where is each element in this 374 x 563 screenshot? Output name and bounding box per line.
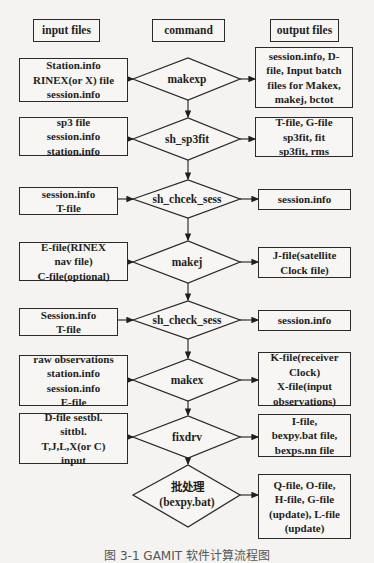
input-box-2: sp3 file session.info station.info [19, 117, 128, 156]
output-box-2: T-file, G-file sp3fit, fit sp3fit, rms [255, 117, 353, 157]
command-makexp: makexp [168, 72, 207, 86]
input-box-7: D-file sestbl. sittbl. T,J,L,X(or C) inp… [19, 413, 128, 464]
output-box-6: K-file(receiver Clock) X-file(input obse… [258, 352, 351, 406]
command-sh-chcek-sess: sh_chcek_sess [152, 192, 221, 206]
command-sh-sp3fit: sh_sp3fit [165, 132, 209, 146]
output-box-1: session.info, D- file, Input batch files… [255, 47, 353, 108]
output-box-3: session.info [258, 189, 351, 210]
input-box-3: session.info T-file [19, 187, 118, 215]
output-box-5: session.info [258, 310, 351, 331]
output-box-8: Q-file, O-file, H-file, G-file (update),… [258, 474, 351, 539]
output-box-7: I-file, bexpy.bat file, bexps.nn file [258, 414, 351, 457]
command-batch-bexpy: 批处理 (bexpy.bat) [159, 480, 214, 510]
input-box-4: E-file(RINEX nav file) C-file(optional) [19, 242, 128, 281]
command-makex: makex [171, 373, 204, 387]
figure-caption: 图 3-1 GAMIT 软件计算流程图 [0, 546, 374, 563]
input-box-6: raw observations station.info session.in… [19, 355, 128, 406]
command-sh-check-sess: sh_check_sess [152, 313, 221, 327]
command-fixdrv: fixdrv [172, 430, 202, 444]
input-box-5: Session.info T-file [19, 308, 118, 336]
output-box-4: J-file(satellite Clock file) [258, 247, 351, 278]
input-box-1: Station.info RINEX(or X) file session.in… [19, 58, 128, 102]
command-makej: makej [172, 255, 203, 269]
